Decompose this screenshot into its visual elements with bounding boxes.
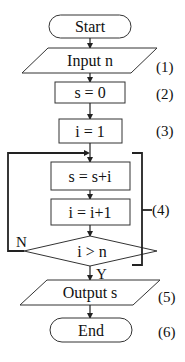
init-i-process: i = 1 <box>59 119 122 143</box>
start-terminal: Start <box>49 15 131 38</box>
init-i-text: i = 1 <box>75 123 104 140</box>
step-label-3: (3) <box>156 123 174 140</box>
step-label-6: (6) <box>158 324 176 341</box>
condition-text: i > n <box>77 243 106 260</box>
flowchart-canvas: Start Input n (1) s = 0 (2) i = 1 (3) s … <box>0 0 185 362</box>
output-parallelogram: Output s <box>20 280 160 305</box>
loop-back-arrowhead <box>84 150 90 156</box>
init-s-text: s = 0 <box>74 84 105 101</box>
output-text: Output s <box>63 284 118 302</box>
accumulate-process: s = s+i <box>51 162 130 190</box>
condition-decision: i > n <box>24 236 157 266</box>
end-terminal: End <box>50 318 132 342</box>
step-label-4: (4) <box>152 202 170 219</box>
start-text: Start <box>75 18 106 35</box>
increment-text: i = i+1 <box>69 204 112 221</box>
input-text: Input n <box>67 52 113 70</box>
increment-process: i = i+1 <box>51 199 130 225</box>
step-label-1: (1) <box>156 59 174 76</box>
input-parallelogram: Input n <box>22 48 157 73</box>
accumulate-text: s = s+i <box>69 168 113 185</box>
step-label-2: (2) <box>156 86 174 103</box>
init-s-process: s = 0 <box>55 82 125 103</box>
end-text: End <box>78 322 104 339</box>
step-label-5: (5) <box>158 289 176 306</box>
no-branch-label: N <box>16 234 27 250</box>
